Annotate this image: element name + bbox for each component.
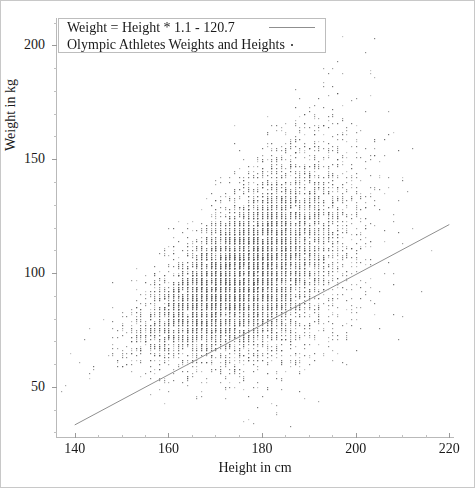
x-tick-label: 140 [64, 441, 85, 457]
y-tick-minor [54, 296, 57, 297]
y-tick-minor [54, 364, 57, 365]
y-tick-major [52, 159, 57, 160]
x-tick-label: 160 [158, 441, 179, 457]
y-tick-minor [54, 205, 57, 206]
y-axis-label: Weight in kg [3, 79, 19, 151]
legend-dot-swatch-icon [269, 36, 315, 53]
x-tick-major [262, 433, 263, 438]
x-tick-label: 200 [345, 441, 366, 457]
x-tick-minor [379, 435, 380, 438]
y-tick-minor [54, 23, 57, 24]
x-tick-major [75, 433, 76, 438]
x-axis-line [56, 437, 454, 438]
x-tick-minor [426, 435, 427, 438]
x-tick-minor [309, 435, 310, 438]
y-tick-label: 200 [1, 37, 45, 53]
x-tick-minor [332, 435, 333, 438]
x-tick-minor [192, 435, 193, 438]
y-tick-minor [54, 68, 57, 69]
y-tick-minor [54, 114, 57, 115]
x-tick-minor [122, 435, 123, 438]
chart-legend: Weight = Height * 1.1 - 120.7 Olympic At… [58, 18, 326, 53]
y-tick-label: 150 [1, 151, 45, 167]
y-tick-minor [54, 341, 57, 342]
y-tick-label: 100 [1, 265, 45, 281]
y-tick-minor [54, 91, 57, 92]
y-tick-label: 50 [1, 379, 45, 395]
y-tick-minor [54, 228, 57, 229]
x-tick-minor [402, 435, 403, 438]
chart-figure: 14016018020022050100150200 Height in cm … [0, 0, 475, 488]
x-tick-minor [239, 435, 240, 438]
x-tick-minor [215, 435, 216, 438]
y-tick-minor [54, 136, 57, 137]
plot-area [56, 18, 454, 437]
y-tick-minor [54, 182, 57, 183]
x-tick-major [168, 433, 169, 438]
legend-entry-formula: Weight = Height * 1.1 - 120.7 [59, 19, 325, 36]
x-tick-major [356, 433, 357, 438]
scatter-canvas [56, 18, 454, 437]
y-tick-major [52, 273, 57, 274]
x-tick-label: 180 [252, 441, 273, 457]
legend-entry-scatter: Olympic Athletes Weights and Heights [59, 36, 325, 53]
y-tick-major [52, 45, 57, 46]
x-tick-minor [98, 435, 99, 438]
y-tick-minor [54, 250, 57, 251]
legend-label-scatter: Olympic Athletes Weights and Heights [67, 36, 285, 53]
x-tick-minor [145, 435, 146, 438]
y-tick-major [52, 387, 57, 388]
x-axis-label: Height in cm [56, 460, 454, 476]
legend-line-swatch-icon [269, 19, 315, 36]
legend-label-formula: Weight = Height * 1.1 - 120.7 [67, 19, 235, 36]
x-tick-label: 220 [439, 441, 460, 457]
x-tick-minor [285, 435, 286, 438]
y-tick-minor [54, 410, 57, 411]
x-tick-major [449, 433, 450, 438]
y-tick-minor [54, 432, 57, 433]
y-tick-minor [54, 319, 57, 320]
